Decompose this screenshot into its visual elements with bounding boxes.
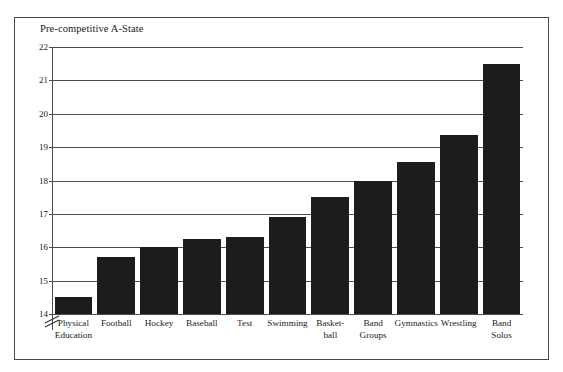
y-axis-tick-label: 19	[39, 142, 48, 152]
x-axis-tick-label: Baseball	[180, 318, 223, 330]
bar[interactable]	[97, 257, 135, 314]
x-axis-tick-label: Basket-ball	[309, 318, 352, 341]
x-axis-tick-label-line: Hockey	[138, 318, 181, 330]
x-axis-tick-label-line: Solos	[480, 330, 523, 342]
x-axis-tick-label-line: Gymnastics	[395, 318, 438, 330]
x-axis-tick-label: Hockey	[138, 318, 181, 330]
y-axis-tick-label: 16	[39, 242, 48, 252]
x-axis-tick-label-line: Swimming	[266, 318, 309, 330]
bar-series	[52, 47, 523, 314]
x-axis-tick-label-line: Band	[352, 318, 395, 330]
bar[interactable]	[354, 181, 392, 315]
bar[interactable]	[140, 247, 178, 314]
y-axis-tick-label: 14	[39, 309, 48, 319]
y-axis-tick-label: 15	[39, 276, 48, 286]
y-axis-tick-label: 21	[39, 75, 48, 85]
bar[interactable]	[269, 217, 307, 314]
y-axis-tick-label: 20	[39, 109, 48, 119]
x-axis-tick-label: Gymnastics	[395, 318, 438, 330]
x-axis-tick-labels: PhysicalEducationFootballHockeyBaseballT…	[52, 318, 523, 358]
bar[interactable]	[55, 297, 93, 314]
bar[interactable]	[311, 197, 349, 314]
bar[interactable]	[226, 237, 264, 314]
bar[interactable]	[483, 64, 521, 314]
x-axis-tick-label: BandGroups	[352, 318, 395, 341]
x-axis-tick-label: Wrestling	[437, 318, 480, 330]
figure-frame: Pre-competitive A-State 1415161718192021…	[14, 17, 549, 360]
chart-title: Pre-competitive A-State	[40, 23, 143, 34]
x-axis-tick-label-line: Band	[480, 318, 523, 330]
y-axis-tick-label: 17	[39, 209, 48, 219]
x-axis-tick-label-line: Test	[223, 318, 266, 330]
x-axis-tick-label-line: Groups	[352, 330, 395, 342]
y-axis-tick-label: 22	[39, 42, 48, 52]
x-axis-tick-label-line: Football	[95, 318, 138, 330]
x-axis-tick-label-line: ball	[309, 330, 352, 342]
x-axis-tick-label-line: Physical	[52, 318, 95, 330]
x-axis-tick-label-line: Baseball	[180, 318, 223, 330]
gridline	[52, 314, 523, 315]
bar[interactable]	[440, 135, 478, 314]
x-axis-tick-label: PhysicalEducation	[52, 318, 95, 341]
bar[interactable]	[397, 162, 435, 314]
y-axis-tick-mark	[49, 314, 53, 315]
y-axis-tick-label: 18	[39, 176, 48, 186]
x-axis-tick-label: Swimming	[266, 318, 309, 330]
x-axis-tick-label: Football	[95, 318, 138, 330]
x-axis-tick-label: BandSolos	[480, 318, 523, 341]
x-axis-tick-label-line: Wrestling	[437, 318, 480, 330]
plot-area: 141516171819202122	[52, 47, 523, 314]
x-axis-tick-label-line: Education	[52, 330, 95, 342]
x-axis-tick-label: Test	[223, 318, 266, 330]
x-axis-tick-label-line: Basket-	[309, 318, 352, 330]
bar[interactable]	[183, 239, 221, 314]
